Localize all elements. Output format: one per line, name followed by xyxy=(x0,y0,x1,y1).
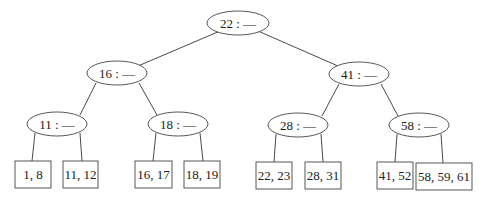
edge-16-18 xyxy=(139,83,157,115)
node-label: 22 : — xyxy=(220,16,257,31)
leaf-1-8: 1, 8 xyxy=(15,161,51,188)
edge-16-11 xyxy=(80,83,96,115)
edge-58-l8 xyxy=(441,134,443,163)
leaf-label: 18, 19 xyxy=(186,167,219,182)
leaf-22-23: 22, 23 xyxy=(256,162,292,189)
node-label: 11 : — xyxy=(39,117,76,132)
node-28: 28 : — xyxy=(268,113,328,137)
leaf-label: 11, 12 xyxy=(64,167,96,182)
edge-root-41 xyxy=(258,31,338,66)
leaf-28-31: 28, 31 xyxy=(305,162,341,189)
edge-18-l4 xyxy=(200,133,203,161)
leaf-18-19: 18, 19 xyxy=(184,161,220,188)
leaf-16-17: 16, 17 xyxy=(135,161,172,188)
node-41: 41 : — xyxy=(329,62,389,86)
node-label: 18 : — xyxy=(160,117,197,132)
leaf-58-59-61: 58, 59, 61 xyxy=(416,163,472,190)
tree-edges xyxy=(32,31,443,163)
leaf-label: 16, 17 xyxy=(137,167,170,182)
leaf-41-52: 41, 52 xyxy=(377,162,413,189)
leaf-11-12: 11, 12 xyxy=(63,161,98,188)
node-16: 16 : — xyxy=(87,61,147,85)
node-label: 16 : — xyxy=(99,66,136,81)
node-root: 22 : — xyxy=(207,11,269,35)
edge-58-l7 xyxy=(395,134,397,162)
edge-root-16 xyxy=(138,31,220,66)
edge-11-l2 xyxy=(80,133,82,161)
leaf-label: 22, 23 xyxy=(258,168,291,183)
leaf-label: 41, 52 xyxy=(379,168,412,183)
edge-41-58 xyxy=(381,84,398,116)
edge-28-l5 xyxy=(274,134,276,162)
b-tree-diagram: 22 : — 16 : — 41 : — 11 : — 18 : — 28 : … xyxy=(0,0,484,201)
node-58: 58 : — xyxy=(389,113,449,137)
edge-11-l1 xyxy=(32,133,35,161)
edge-41-28 xyxy=(322,84,339,116)
node-label: 41 : — xyxy=(341,67,378,82)
leaf-label: 28, 31 xyxy=(307,168,340,183)
node-label: 28 : — xyxy=(280,118,317,133)
edge-18-l3 xyxy=(153,133,156,161)
node-label: 58 : — xyxy=(401,118,438,133)
node-18: 18 : — xyxy=(148,112,208,136)
edge-28-l6 xyxy=(321,134,323,162)
leaf-label: 58, 59, 61 xyxy=(418,169,470,184)
node-11: 11 : — xyxy=(27,112,87,136)
leaf-label: 1, 8 xyxy=(23,167,43,182)
